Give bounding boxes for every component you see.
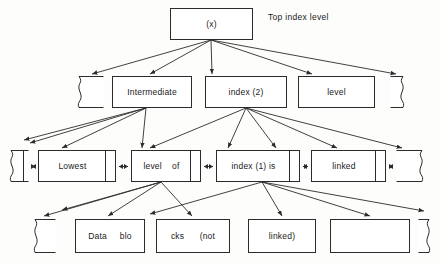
node-cks-not-label: cks (not [171, 232, 215, 241]
node-linked-close-label: linked) [269, 232, 295, 241]
node-data-torn-right [418, 219, 432, 253]
index-hierarchy-diagram: Top index level (x)Intermediateindex (2)… [0, 0, 441, 265]
node-level-of-divider [190, 151, 191, 181]
node-intermediate-label: Intermediate [127, 88, 177, 97]
node-index-1-is: index (1) is [216, 150, 300, 182]
edge-levelof-to-torn [44, 182, 161, 216]
edge-inter-to-level-of [142, 108, 146, 148]
node-lowest-torn-right [396, 150, 425, 182]
edge-top-to-intermediate [150, 40, 211, 74]
edge-top-to-level [211, 40, 312, 74]
node-level-of: level of [131, 150, 201, 182]
node-lowest-torn-left [8, 150, 29, 182]
top-index-level-caption: Top index level [268, 12, 329, 22]
node-intermediate: Intermediate [112, 76, 192, 108]
node-linked-close: linked) [248, 219, 316, 253]
edge-inter-to-lowest-a [30, 108, 146, 143]
edge-top-to-index2 [211, 40, 212, 74]
node-top-index: (x) [170, 8, 253, 40]
edge-idx1-to-torn-right [262, 182, 424, 211]
node-cks-not: cks (not [156, 219, 230, 253]
node-intermediate-torn-right [390, 76, 406, 108]
node-level-label: level [327, 88, 345, 97]
node-index-1-is-label: index (1) is [232, 162, 276, 171]
edge-inter-to-far-left [24, 108, 146, 140]
node-linked-divider [375, 151, 376, 181]
edge-top-to-torn-left [92, 40, 211, 74]
edge-levelof-to-cks [161, 182, 192, 216]
node-linked: linked [311, 150, 386, 182]
node-data-blo-label: Data blo [88, 232, 132, 241]
edge-idx1-to-empty [262, 182, 370, 216]
node-data-torn-left [32, 219, 56, 253]
node-lowest-label: Lowest [58, 162, 86, 171]
node-data-empty [330, 219, 410, 253]
connector-lowest-to-level-of [116, 162, 131, 171]
connector-index-1-to-linked [300, 162, 311, 171]
edge-top-to-torn-right [211, 40, 396, 74]
node-level: level [298, 76, 375, 108]
node-index-2-label: index (2) [229, 88, 264, 97]
node-linked-label: linked [332, 162, 355, 171]
node-data-blo: Data blo [75, 219, 145, 253]
connector-level-of-to-index-1 [201, 162, 216, 171]
node-intermediate-torn-left [76, 76, 104, 108]
node-index-1-is-divider [289, 151, 290, 181]
node-lowest: Lowest [38, 150, 116, 182]
connector-linked-to-torn [386, 162, 396, 171]
node-lowest-torn-left-divider [23, 150, 24, 182]
edge-idx2-to-lowest [150, 108, 246, 148]
edge-idx2-to-index1 [246, 108, 276, 148]
node-lowest-divider [105, 151, 106, 181]
node-level-of-label: level of [143, 162, 179, 171]
edge-inter-to-lowest [62, 108, 146, 148]
node-top-index-label: (x) [206, 20, 217, 29]
node-index-2: index (2) [205, 76, 287, 108]
connector-torn-to-lowest [29, 162, 38, 171]
edge-idx1-to-data [150, 182, 262, 214]
edge-levelof-to-data [108, 182, 161, 216]
